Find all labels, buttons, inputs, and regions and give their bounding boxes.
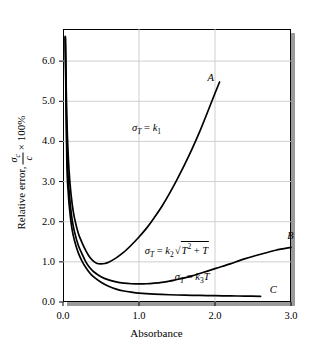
- sigma-subscript-T: T: [180, 276, 184, 285]
- k-subscript-1: 1: [157, 127, 161, 136]
- x-tick-label: 3.0: [271, 310, 311, 321]
- fraction-denominator: c: [24, 152, 34, 164]
- curve-a: [65, 36, 219, 264]
- sigma-subscript-T: T: [150, 249, 154, 258]
- figure-container: 0.0 1.0 2.0 3.0 4.0 5.0 6.0 0.0 1.0 2.0 …: [0, 0, 313, 348]
- T-symbol: T: [204, 271, 210, 282]
- annotation-sigma-k2-sqrt: σT = k2√T2 + T: [145, 241, 209, 259]
- y-axis-title: Relative error,σcc× 100%: [10, 58, 35, 288]
- x-tick-label: 0.0: [43, 310, 83, 321]
- x-tick-label: 1.0: [119, 310, 159, 321]
- curve-label-c: C: [270, 284, 277, 295]
- y-axis-title-suffix: × 100%: [15, 116, 27, 151]
- fraction-numerator: σc: [9, 152, 24, 164]
- curve-label-b: B: [287, 230, 293, 241]
- curve-label-a: A: [207, 72, 213, 83]
- x-axis-title: Absorbance: [0, 327, 313, 339]
- y-axis-title-fraction: σcc: [9, 152, 34, 164]
- radicand: T2 + T: [181, 241, 210, 256]
- sigma-subscript-T: T: [137, 127, 141, 136]
- annotation-sigma-k1: σT = k1: [132, 122, 161, 136]
- gridlines: [63, 29, 291, 302]
- radical-icon: √T2 + T: [174, 241, 209, 256]
- y-tick-label: 0.0: [21, 296, 55, 307]
- y-axis-title-prefix: Relative error,: [15, 166, 27, 229]
- annotation-sigma-k3T: σT = k3T: [175, 271, 210, 285]
- equals-sign: =: [157, 244, 163, 255]
- x-tick-label: 2.0: [195, 310, 235, 321]
- equals-sign: =: [187, 271, 193, 282]
- equals-sign: =: [144, 122, 150, 133]
